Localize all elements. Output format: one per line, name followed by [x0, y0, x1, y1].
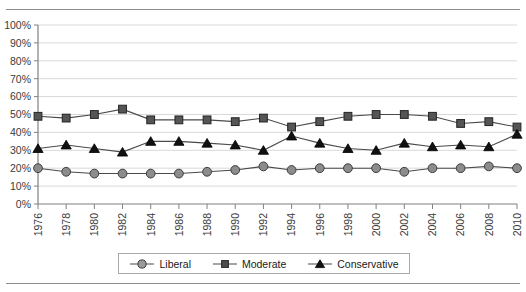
data-point-marker [457, 120, 465, 128]
plot-area-wrapper: 0%10%20%30%40%50%60%70%80%90%100%1976197… [0, 14, 526, 214]
data-point-marker [62, 114, 70, 122]
y-axis-tick-label: 40% [10, 126, 31, 138]
y-axis-tick-label: 90% [10, 37, 31, 49]
data-point-marker [62, 167, 71, 176]
x-axis-tick-label: 1994 [285, 213, 297, 237]
data-point-marker [513, 164, 522, 173]
y-axis-tick-label: 100% [4, 19, 31, 31]
data-point-marker [259, 162, 268, 171]
data-point-marker [34, 112, 42, 120]
data-point-marker [485, 118, 493, 126]
data-point-marker [203, 116, 211, 124]
x-axis-tick-label: 2002 [398, 213, 410, 237]
line-chart: 0%10%20%30%40%50%60%70%80%90%100%1976197… [0, 14, 526, 262]
data-point-marker [288, 123, 296, 131]
circle-marker-icon [129, 258, 155, 270]
data-point-marker [231, 118, 239, 126]
data-point-marker [344, 164, 353, 173]
square-marker-icon [212, 258, 238, 270]
x-axis-tick-label: 1980 [88, 213, 100, 237]
data-point-marker [90, 169, 99, 178]
data-point-marker [118, 169, 127, 178]
data-point-marker [456, 140, 466, 149]
x-axis-tick-label: 1982 [116, 213, 128, 237]
cropped-caption-remnant [150, 0, 400, 6]
x-axis-tick-label: 1986 [173, 213, 185, 237]
x-axis-tick-label: 2010 [511, 213, 523, 237]
legend-label-moderate: Moderate [242, 258, 286, 270]
legend-label-liberal: Liberal [159, 258, 191, 270]
y-axis-tick-label: 0% [16, 198, 31, 210]
data-point-marker [400, 167, 409, 176]
x-axis-tick-label: 1998 [342, 213, 354, 237]
legend-label-conservative: Conservative [337, 258, 398, 270]
series-line-moderate [38, 109, 517, 127]
data-point-marker [316, 118, 324, 126]
x-axis-tick-label: 1996 [314, 213, 326, 237]
data-point-marker [34, 164, 43, 173]
data-point-marker [231, 166, 240, 175]
bottom-horizontal-rule [6, 283, 520, 284]
data-point-marker [399, 138, 409, 147]
data-point-marker [90, 111, 98, 119]
x-axis-tick-label: 1976 [32, 213, 44, 237]
x-axis-tick-label: 1988 [201, 213, 213, 237]
legend-item-conservative[interactable]: Conservative [307, 258, 398, 270]
data-point-marker [61, 140, 71, 149]
y-axis-tick-label: 30% [10, 144, 31, 156]
data-point-marker [400, 111, 408, 119]
x-axis-tick-label: 2008 [483, 213, 495, 237]
x-axis-tick-label: 1984 [145, 213, 157, 237]
data-point-marker [372, 111, 380, 119]
data-point-marker [484, 162, 493, 171]
x-axis-tick-label: 1990 [229, 213, 241, 237]
data-point-marker [315, 164, 324, 173]
y-axis-tick-label: 50% [10, 108, 31, 120]
data-point-marker [287, 166, 296, 175]
top-horizontal-rule [6, 9, 520, 10]
y-axis-tick-label: 20% [10, 162, 31, 174]
data-point-marker [372, 164, 381, 173]
y-axis-tick-label: 10% [10, 180, 31, 192]
chart-legend: Liberal Moderate Conservative [118, 253, 410, 274]
data-point-marker [456, 164, 465, 173]
legend-item-liberal[interactable]: Liberal [129, 258, 191, 270]
series-line-liberal [38, 166, 517, 173]
data-point-marker [260, 114, 268, 122]
data-point-marker [428, 164, 437, 173]
legend-item-moderate[interactable]: Moderate [212, 258, 286, 270]
x-axis-tick-label: 2000 [370, 213, 382, 237]
data-point-marker [174, 169, 183, 178]
y-axis-tick-label: 80% [10, 55, 31, 67]
x-axis-tick-label: 2004 [426, 213, 438, 237]
data-point-marker [119, 105, 127, 113]
data-point-marker [175, 116, 183, 124]
data-point-marker [146, 169, 155, 178]
y-axis-tick-label: 70% [10, 73, 31, 85]
x-axis-tick-label: 1992 [257, 213, 269, 237]
figure-container: 0%10%20%30%40%50%60%70%80%90%100%1976197… [0, 0, 526, 292]
data-point-marker [344, 112, 352, 120]
x-axis-tick-label: 1978 [60, 213, 72, 237]
series-line-conservative [38, 134, 517, 152]
data-point-marker [147, 116, 155, 124]
y-axis-tick-label: 60% [10, 90, 31, 102]
triangle-marker-icon [307, 258, 333, 270]
data-point-marker [203, 167, 212, 176]
data-point-marker [429, 112, 437, 120]
x-axis-tick-label: 2006 [454, 213, 466, 237]
